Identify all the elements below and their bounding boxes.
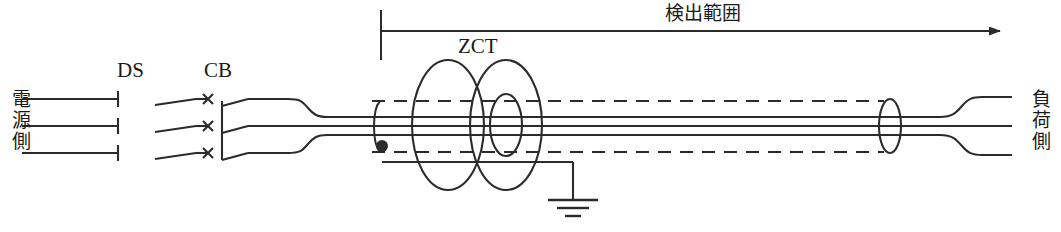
label-circuit-breaker: CB xyxy=(204,60,232,81)
load-side-fanout xyxy=(940,97,1012,155)
label-source-side: 電源側 xyxy=(10,89,31,152)
phase-line-middle xyxy=(22,126,372,133)
ground-symbol xyxy=(548,200,598,216)
label-detection-range: 検出範囲 xyxy=(665,4,741,23)
label-zct: ZCT xyxy=(458,36,498,57)
shield-earth-lead xyxy=(382,162,573,200)
label-disconnect-switch: DS xyxy=(117,60,144,81)
circuit-breaker-cb xyxy=(203,94,222,160)
shield-tap-junction-dot xyxy=(376,140,388,152)
label-load-side: 負荷側 xyxy=(1030,89,1051,152)
phase-line-bottom xyxy=(22,135,372,160)
phase-line-top xyxy=(22,99,372,117)
zct-wiring-diagram: DS CB ZCT 検出範囲 電源側 負荷側 xyxy=(0,0,1061,232)
cable-core-conductors xyxy=(372,117,940,135)
diagram-canvas xyxy=(0,0,1061,232)
